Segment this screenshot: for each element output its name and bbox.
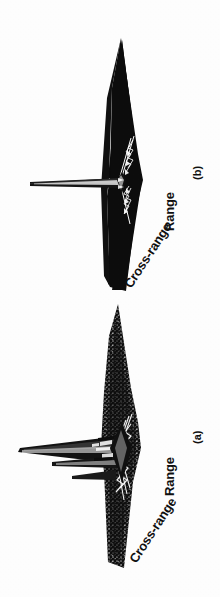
panel-a: Range Cross-range (a) bbox=[0, 296, 220, 588]
figure-root: Range Cross-range (b) bbox=[0, 0, 220, 597]
panel-b: Range Cross-range (b) bbox=[0, 28, 220, 300]
axis-label-range-a: Range bbox=[163, 457, 176, 496]
surface-mesh-b bbox=[101, 38, 143, 291]
surface-plot-a bbox=[0, 296, 220, 588]
surface-plot-b bbox=[0, 28, 220, 300]
sub-figure-label-b: (b) bbox=[192, 166, 203, 180]
sub-figure-label-a: (a) bbox=[192, 431, 203, 444]
